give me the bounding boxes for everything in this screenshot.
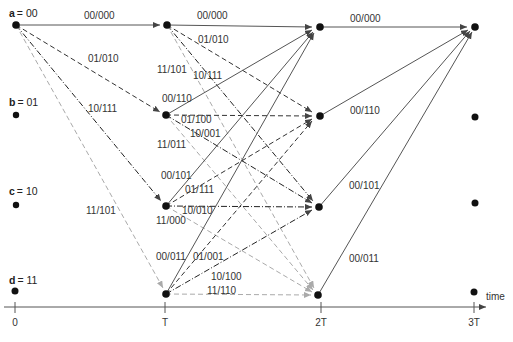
label-1-d-c: 10/100 — [211, 271, 242, 282]
stage1-labels: 00/000 01/010 10/111 11/101 00/110 01/10… — [156, 10, 242, 296]
trellis-diagram: 0 T 2T 3T time a= 00 b= 01 c= 10 d= 11 — [0, 0, 513, 342]
label-1-b-a: 00/110 — [162, 93, 192, 104]
node-3T-c — [472, 200, 479, 207]
label-2-a-a: 00/000 — [350, 13, 381, 24]
time-label: time — [486, 291, 505, 302]
label-1-b-d: 11/011 — [157, 139, 187, 150]
label-1-c-a: 00/101 — [161, 170, 192, 181]
label-2-d-a: 00/011 — [349, 253, 379, 264]
node-0-b — [13, 112, 19, 118]
state-label-c: c= 10 — [9, 185, 38, 197]
stage2-labels: 00/000 00/110 00/101 00/011 — [349, 13, 381, 264]
node-2T-d — [314, 291, 322, 299]
stage0-labels: 00/000 01/010 10/111 11/101 — [84, 10, 119, 216]
tick-0: 0 — [12, 317, 18, 328]
node-3T-b — [472, 114, 479, 121]
time-axis: 0 T 2T 3T time — [4, 291, 505, 328]
tick-2T: 2T — [315, 317, 327, 328]
stage1-edges — [166, 25, 314, 295]
label-0-a-b: 01/010 — [88, 53, 119, 64]
node-T-c — [162, 202, 170, 210]
label-1-a-d: 11/101 — [157, 64, 187, 75]
label-1-c-d: 11/000 — [156, 215, 186, 226]
node-0-d — [12, 288, 19, 295]
label-1-a-b: 01/010 — [198, 34, 229, 45]
node-0-a — [12, 21, 20, 29]
label-1-b-b: 01/100 — [181, 114, 212, 125]
node-3T-d — [471, 289, 478, 296]
node-3T-a — [471, 23, 479, 31]
node-T-d — [162, 290, 170, 298]
label-1-d-d: 11/110 — [207, 285, 237, 296]
node-T-a — [163, 21, 171, 29]
label-1-d-a: 00/011 — [156, 251, 186, 262]
state-labels: a= 00 b= 01 c= 10 d= 11 — [9, 7, 38, 286]
tick-T: T — [162, 317, 168, 328]
trellis-canvas: 0 T 2T 3T time a= 00 b= 01 c= 10 d= 11 — [0, 0, 513, 342]
label-2-c-a: 00/101 — [349, 180, 380, 191]
node-T-b — [162, 111, 170, 119]
label-1-a-c: 10/111 — [193, 70, 223, 81]
stage2-edges — [318, 27, 472, 295]
node-2T-c — [315, 203, 323, 211]
state-label-a: a= 00 — [9, 7, 38, 19]
state-label-b: b= 01 — [9, 96, 38, 108]
trellis-nodes — [12, 21, 479, 299]
node-0-c — [13, 202, 19, 208]
label-1-c-b: 01/111 — [185, 184, 215, 195]
label-1-b-c: 10/001 — [190, 128, 221, 139]
label-0-a-a: 00/000 — [84, 10, 115, 21]
node-2T-a — [316, 23, 324, 31]
label-0-a-c: 10/111 — [88, 103, 118, 114]
label-1-d-b: 01/001 — [193, 251, 224, 262]
stage0-edges — [16, 25, 163, 288]
tick-3T: 3T — [468, 317, 480, 328]
label-0-a-d: 11/101 — [86, 205, 116, 216]
label-1-c-c: 10/010 — [182, 205, 213, 216]
state-label-d: d= 11 — [9, 274, 38, 286]
label-1-a-a: 00/000 — [197, 10, 228, 21]
label-2-b-a: 00/110 — [350, 105, 380, 116]
node-2T-b — [316, 112, 324, 120]
edge-0-a-d — [16, 25, 163, 288]
